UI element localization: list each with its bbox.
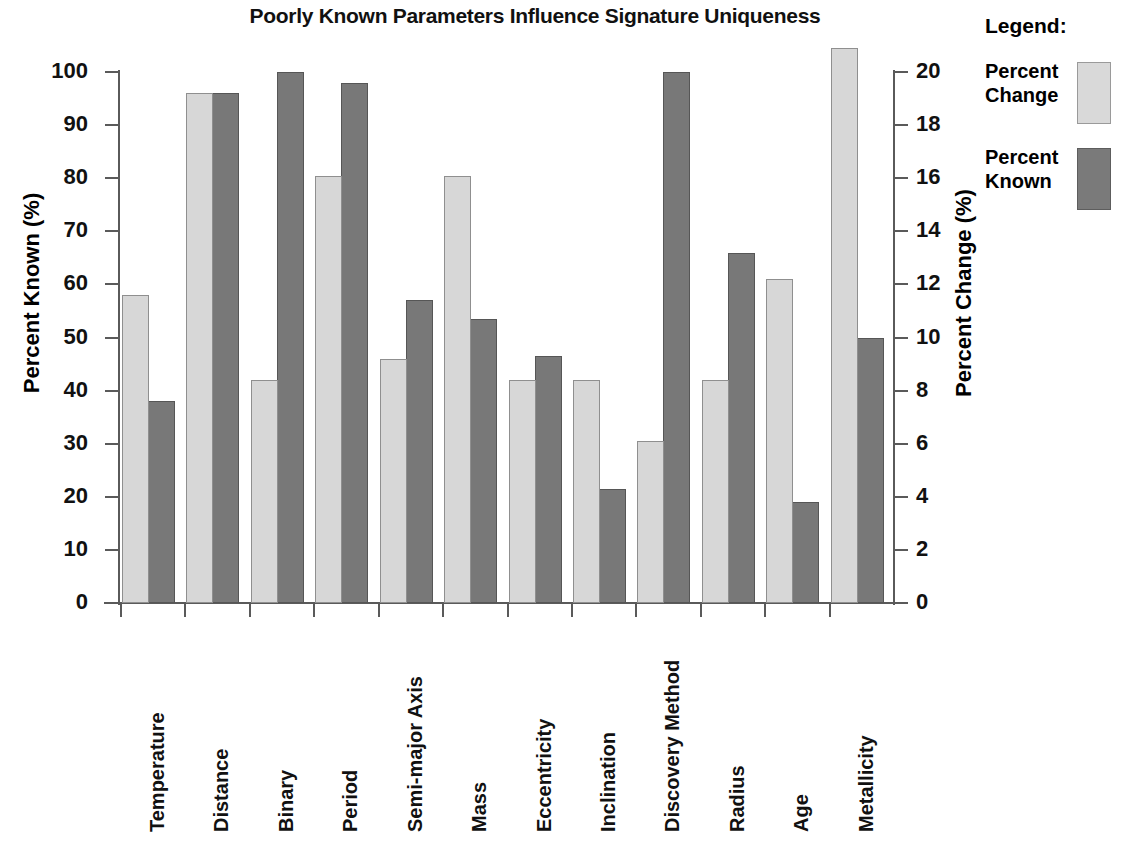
bar-percent-known[interactable] xyxy=(277,72,304,603)
x-axis-tick xyxy=(313,604,315,617)
y-axis-tick xyxy=(105,230,118,232)
x-axis-tick-label: Inclination xyxy=(597,602,620,832)
x-axis-tick xyxy=(378,604,380,617)
x-axis-tick xyxy=(635,604,637,617)
y-axis-tick xyxy=(105,443,118,445)
bar-group xyxy=(184,0,248,603)
x-axis-tick-label: Semi-major Axis xyxy=(404,602,427,832)
bar-group xyxy=(442,0,506,603)
y-axis-tick xyxy=(105,337,118,339)
y2-axis-tick xyxy=(895,390,908,392)
bar-group xyxy=(829,0,893,603)
x-axis-tick xyxy=(829,604,831,617)
y2-axis-tick xyxy=(895,230,908,232)
legend: Legend: Percent Change Percent Known xyxy=(985,14,1145,232)
bar-group xyxy=(249,0,313,603)
y2-axis-tick-label: 10 xyxy=(916,326,940,348)
x-axis-tick-label: Radius xyxy=(726,602,749,832)
y2-axis-tick xyxy=(895,124,908,126)
bar-percent-known[interactable] xyxy=(470,319,497,603)
bar-percent-change[interactable] xyxy=(766,279,793,603)
bar-percent-known[interactable] xyxy=(535,356,562,603)
y-axis-tick xyxy=(105,602,118,604)
bar-percent-known[interactable] xyxy=(792,502,819,603)
bar-plot-area xyxy=(120,0,893,603)
bar-percent-change[interactable] xyxy=(444,176,471,603)
x-axis-tick-label: Temperature xyxy=(146,602,169,832)
y-axis-tick xyxy=(105,549,118,551)
bar-percent-known[interactable] xyxy=(857,338,884,604)
x-axis-tick xyxy=(764,604,766,617)
x-axis-tick xyxy=(184,604,186,617)
bar-percent-change[interactable] xyxy=(831,48,858,603)
y-axis-tick-label: 60 xyxy=(64,272,88,294)
legend-item-percent-known[interactable]: Percent Known xyxy=(985,146,1145,210)
bar-group xyxy=(378,0,442,603)
bar-percent-change[interactable] xyxy=(573,380,600,603)
x-axis-tick-label: Binary xyxy=(275,602,298,832)
y2-axis-tick xyxy=(895,283,908,285)
y-axis-tick xyxy=(105,124,118,126)
y-axis-tick-label: 30 xyxy=(64,432,88,454)
legend-title: Legend: xyxy=(985,14,1145,38)
bar-percent-change[interactable] xyxy=(251,380,278,603)
x-axis-tick-labels: TemperatureDistanceBinaryPeriodSemi-majo… xyxy=(120,604,893,844)
y2-axis-tick xyxy=(895,549,908,551)
x-axis-tick-label: Period xyxy=(339,602,362,832)
x-axis-tick xyxy=(571,604,573,617)
x-axis-tick-label: Discovery Method xyxy=(661,602,684,832)
y-axis-tick-label: 80 xyxy=(64,166,88,188)
x-axis-tick-label: Age xyxy=(790,602,813,832)
y-axis-tick xyxy=(105,496,118,498)
x-axis-tick xyxy=(700,604,702,617)
y2-axis-tick xyxy=(895,602,908,604)
bar-percent-change[interactable] xyxy=(186,93,213,603)
bar-percent-known[interactable] xyxy=(663,72,690,603)
y-axis-title-left: Percent Known (%) xyxy=(19,93,45,493)
x-axis-tick xyxy=(507,604,509,617)
y2-axis-tick-label: 14 xyxy=(916,219,940,241)
y2-axis-tick-label: 4 xyxy=(916,485,928,507)
bar-percent-change[interactable] xyxy=(637,441,664,603)
y2-axis-tick-label: 20 xyxy=(916,60,940,82)
bar-group xyxy=(507,0,571,603)
legend-item-label: Percent Change xyxy=(985,60,1077,107)
bar-group xyxy=(313,0,377,603)
y2-axis-tick-label: 18 xyxy=(916,113,940,135)
bar-percent-known[interactable] xyxy=(148,401,175,603)
legend-swatch-percent-change xyxy=(1077,62,1111,124)
bar-percent-known[interactable] xyxy=(406,300,433,603)
y-axis-tick-label: 100 xyxy=(51,60,88,82)
y2-axis-tick-label: 16 xyxy=(916,166,940,188)
x-axis-tick-label: Metallicity xyxy=(855,602,878,832)
y-axis-tick xyxy=(105,71,118,73)
y2-axis-tick-label: 12 xyxy=(916,272,940,294)
y-axis-tick-label: 10 xyxy=(64,538,88,560)
legend-item-percent-change[interactable]: Percent Change xyxy=(985,60,1145,124)
y-axis-tick xyxy=(105,390,118,392)
bar-group xyxy=(700,0,764,603)
y-axis-tick-label: 40 xyxy=(64,379,88,401)
bar-percent-change[interactable] xyxy=(380,359,407,603)
bar-percent-known[interactable] xyxy=(599,489,626,603)
bar-group xyxy=(764,0,828,603)
bar-percent-change[interactable] xyxy=(509,380,536,603)
y-axis-title-right: Percent Change (%) xyxy=(951,93,977,493)
x-axis-tick-label: Mass xyxy=(468,602,491,832)
bar-percent-known[interactable] xyxy=(341,83,368,603)
x-axis-tick xyxy=(442,604,444,617)
bar-percent-change[interactable] xyxy=(702,380,729,603)
x-axis-tick xyxy=(120,604,122,617)
y2-axis-tick xyxy=(895,71,908,73)
bar-percent-known[interactable] xyxy=(212,93,239,603)
y2-axis-tick xyxy=(895,496,908,498)
y2-axis-tick-label: 0 xyxy=(916,591,928,613)
x-axis-tick-label: Distance xyxy=(210,602,233,832)
bar-percent-change[interactable] xyxy=(315,176,342,603)
y2-axis-tick-label: 6 xyxy=(916,432,928,454)
y2-axis-tick-label: 2 xyxy=(916,538,928,560)
bar-percent-change[interactable] xyxy=(122,295,149,603)
bar-percent-known[interactable] xyxy=(728,253,755,603)
y2-axis-tick xyxy=(895,443,908,445)
y-axis-tick-label: 50 xyxy=(64,326,88,348)
